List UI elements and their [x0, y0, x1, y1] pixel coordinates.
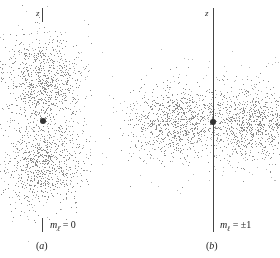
m-label-a: mℓ = 0	[50, 219, 76, 233]
caption-b: (b)	[206, 240, 218, 251]
nucleus-b	[210, 119, 216, 125]
nucleus-a	[40, 118, 46, 124]
panel-a-mℓ0: z mℓ = 0 (a)	[0, 0, 92, 258]
electron-cloud-a	[0, 0, 92, 258]
panel-b-mℓpm1: z mℓ = ±1 (b)	[92, 0, 280, 258]
z-axis-label-a: z	[36, 8, 40, 18]
z-axis-top-a	[42, 8, 43, 22]
z-axis-bottom-a	[42, 218, 43, 232]
caption-a: (a)	[36, 240, 48, 251]
z-axis-label-b: z	[205, 8, 209, 18]
electron-cloud-b	[92, 0, 280, 258]
m-label-b: mℓ = ±1	[220, 219, 251, 233]
